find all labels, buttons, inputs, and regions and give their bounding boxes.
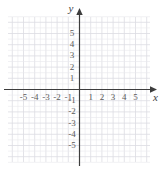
y-tick-label-neg2: -2	[63, 107, 81, 116]
y-tick-label-neg4: -4	[63, 130, 81, 139]
coordinate-plane-figure: -5-4-3-2-11234554321-1-2-3-4-5xy	[0, 0, 165, 171]
x-tick-label-5: 5	[127, 93, 145, 102]
x-axis-label: x	[153, 92, 158, 103]
y-tick-label-1: 1	[63, 74, 81, 83]
y-tick-label-3: 3	[63, 51, 81, 60]
y-tick-label-5: 5	[63, 29, 81, 38]
y-axis-arrowhead	[76, 8, 82, 15]
y-tick-label-2: 2	[63, 63, 81, 72]
y-tick-label-neg1: -1	[63, 96, 81, 105]
y-tick-label-neg5: -5	[63, 141, 81, 150]
coordinate-plane-svg	[0, 0, 165, 171]
y-axis-label: y	[69, 3, 74, 14]
y-tick-label-4: 4	[63, 40, 81, 49]
y-tick-label-neg3: -3	[63, 119, 81, 128]
